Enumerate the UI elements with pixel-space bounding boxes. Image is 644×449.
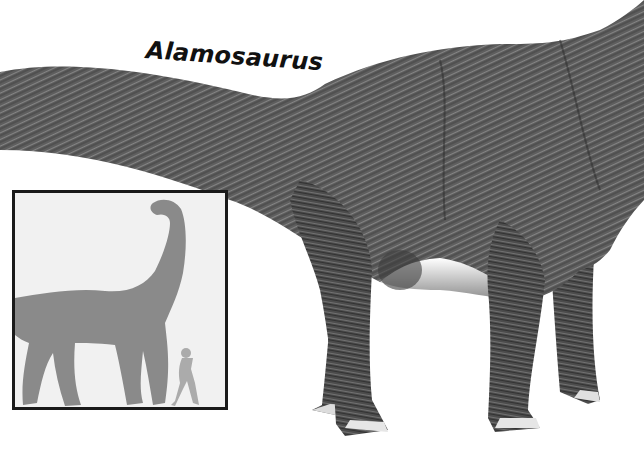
size-comparison-inset: [12, 190, 228, 410]
book-page: Alamosaurus: [0, 0, 644, 449]
human-silhouette: [171, 348, 199, 406]
dinosaur-silhouette: [15, 200, 186, 406]
size-comparison-figure: [15, 193, 228, 410]
